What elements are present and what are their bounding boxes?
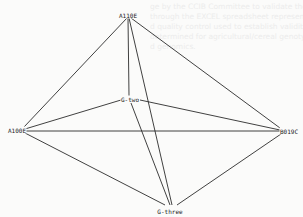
- edge-layer: [0, 0, 303, 217]
- edge-g-two-b019c: [140, 100, 280, 130]
- edge-a110e-a100e: [24, 18, 127, 127]
- edge-a100e-g-three: [25, 133, 165, 205]
- graph-canvas: ge by the CCIB Committee to validate the…: [0, 0, 303, 217]
- edge-b019c-g-three: [177, 134, 281, 205]
- node-b019c: B019C: [279, 128, 298, 135]
- node-a100e: A100E: [7, 127, 26, 134]
- edge-g-two-g-three: [131, 103, 170, 205]
- edge-a110e-b019c: [131, 18, 280, 128]
- node-g-two: G-two: [120, 96, 139, 103]
- node-a110e: A110E: [118, 12, 137, 19]
- edge-a110e-g-two: [128, 18, 129, 96]
- node-g-three: G-three: [157, 208, 183, 215]
- edge-a100e-g-two: [25, 100, 121, 129]
- edge-a110e-g-three: [129, 18, 172, 205]
